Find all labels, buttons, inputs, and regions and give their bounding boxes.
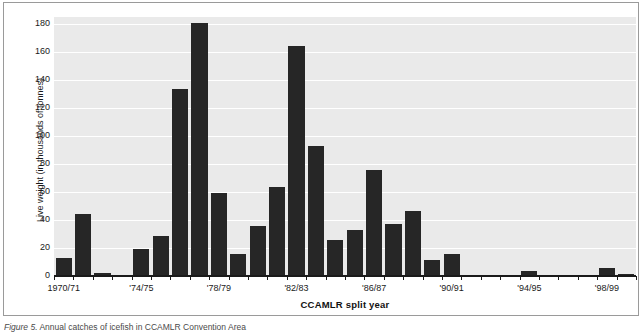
bar xyxy=(153,236,169,276)
x-tick-mark xyxy=(112,276,113,280)
x-tick-mark xyxy=(326,276,327,280)
bar xyxy=(424,260,440,276)
figure-frame: Live weight (in thousands of tonnes) 020… xyxy=(3,2,639,316)
x-tick-mark xyxy=(248,276,249,280)
x-tick-mark xyxy=(287,276,288,280)
x-tick-label: '86/87 xyxy=(362,283,386,293)
figure-caption: Figure 5. Annual catches of icefish in C… xyxy=(4,322,634,332)
y-tick-label: 60 xyxy=(16,187,50,196)
y-tick-label: 0 xyxy=(16,271,50,280)
x-tick-label: '82/83 xyxy=(284,283,308,293)
bar xyxy=(230,254,246,276)
x-tick-mark xyxy=(597,276,598,280)
x-tick-mark xyxy=(384,276,385,280)
x-tick-label: '90/91 xyxy=(440,283,464,293)
bar xyxy=(288,46,304,276)
x-tick-mark xyxy=(617,276,618,280)
y-tick-label: 140 xyxy=(16,75,50,84)
y-tick-label: 100 xyxy=(16,131,50,140)
bar xyxy=(269,187,285,276)
plot-area xyxy=(54,17,636,276)
x-tick-mark xyxy=(500,276,501,280)
x-tick-mark xyxy=(190,276,191,280)
x-tick-mark xyxy=(636,276,637,280)
x-tick-mark xyxy=(73,276,74,280)
figure-caption-label: Figure 5. xyxy=(4,322,38,332)
bar xyxy=(75,214,91,276)
bar xyxy=(444,254,460,276)
x-tick-mark xyxy=(578,276,579,280)
x-tick-label: '74/75 xyxy=(129,283,153,293)
x-axis-label: CCAMLR split year xyxy=(54,299,636,310)
y-tick-label: 180 xyxy=(16,19,50,28)
bar xyxy=(327,240,343,276)
figure-container: Live weight (in thousands of tonnes) 020… xyxy=(0,0,643,333)
x-tick-mark xyxy=(132,276,133,280)
bar xyxy=(250,226,266,276)
bar xyxy=(366,170,382,276)
bar xyxy=(191,23,207,276)
x-tick-mark xyxy=(364,276,365,280)
x-tick-label: 1970/71 xyxy=(47,283,80,293)
bar xyxy=(385,224,401,277)
x-tick-label: '98/99 xyxy=(595,283,619,293)
x-tick-mark xyxy=(403,276,404,280)
y-tick-label: 160 xyxy=(16,47,50,56)
y-tick-label: 120 xyxy=(16,103,50,112)
x-tick-label: '94/95 xyxy=(517,283,541,293)
x-tick-mark xyxy=(93,276,94,280)
bar xyxy=(56,258,72,276)
bar xyxy=(211,193,227,276)
bar xyxy=(405,211,421,276)
bar xyxy=(347,230,363,276)
x-tick-mark xyxy=(229,276,230,280)
x-tick-mark xyxy=(481,276,482,280)
x-tick-mark xyxy=(267,276,268,280)
y-axis-ticks: 020406080100120140160180 xyxy=(12,3,50,333)
x-tick-mark xyxy=(151,276,152,280)
x-tick-mark xyxy=(520,276,521,280)
x-tick-mark xyxy=(558,276,559,280)
x-tick-mark xyxy=(209,276,210,280)
x-tick-mark xyxy=(423,276,424,280)
x-tick-mark xyxy=(54,276,55,280)
bar xyxy=(172,89,188,276)
bar xyxy=(308,146,324,276)
x-tick-mark xyxy=(461,276,462,280)
bar xyxy=(133,249,149,276)
y-tick-label: 80 xyxy=(16,159,50,168)
x-tick-mark xyxy=(539,276,540,280)
y-tick-label: 20 xyxy=(16,243,50,252)
x-tick-label: '78/79 xyxy=(207,283,231,293)
x-tick-mark xyxy=(345,276,346,280)
x-tick-mark xyxy=(170,276,171,280)
x-tick-mark xyxy=(306,276,307,280)
x-tick-mark xyxy=(442,276,443,280)
y-tick-label: 40 xyxy=(16,215,50,224)
figure-caption-text: Annual catches of icefish in CCAMLR Conv… xyxy=(39,322,245,332)
bar-series xyxy=(54,17,636,276)
